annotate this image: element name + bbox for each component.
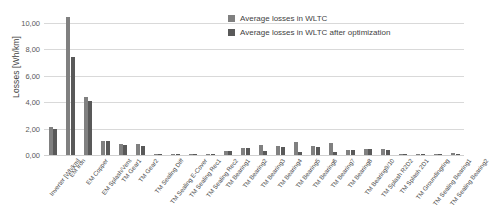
bar-series-0 (171, 154, 175, 155)
bar-series-1 (71, 57, 75, 155)
bar-series-0 (276, 146, 280, 155)
y-tick-label: 6,00 (25, 71, 40, 80)
bar-series-0 (154, 154, 158, 155)
bar-series-1 (53, 129, 57, 155)
x-label-cell: TM Bearing2 (237, 156, 255, 223)
bar-series-0 (434, 154, 438, 155)
x-label-cell: TM Groundingring (412, 156, 430, 223)
bar-series-1 (386, 150, 390, 155)
bar-series-1 (456, 154, 460, 155)
x-label-cell: TM Bearing7 (324, 156, 342, 223)
bar-group (149, 12, 167, 155)
x-label-cell: TM Sealing Bearing1 (429, 156, 447, 223)
x-label-cell: TM Bearing5 (289, 156, 307, 223)
x-label-cell: TM Sealing Bearing2 (447, 156, 465, 223)
x-label-cell: EM Iron (62, 156, 80, 223)
x-label-cell: TM Sealing Rec2 (202, 156, 220, 223)
bar-series-1 (211, 154, 215, 155)
y-tick-label: 10,00 (21, 18, 40, 27)
x-label-cell: TM Gear1 (114, 156, 132, 223)
bar-group (114, 12, 132, 155)
bar-group (79, 12, 97, 155)
x-label-cell: TM Sealing Rec1 (184, 156, 202, 223)
bar-series-0 (136, 144, 140, 155)
bar-series-0 (206, 154, 210, 155)
y-tick-label: 4,00 (25, 98, 40, 107)
x-label-cell: EM Copper (79, 156, 97, 223)
bar-series-0 (329, 143, 333, 155)
bar-group (97, 12, 115, 155)
bar-series-1 (438, 154, 442, 155)
x-label-cell: TM Bearing9/10 (359, 156, 377, 223)
legend-swatch-icon (228, 15, 235, 22)
bar-series-1 (141, 146, 145, 155)
bar-series-1 (228, 151, 232, 155)
bar-series-0 (399, 154, 403, 155)
bar-series-0 (189, 154, 193, 155)
bar-series-1 (123, 145, 127, 155)
bar-series-1 (403, 154, 407, 155)
legend-item-series-1: Average losses in WLTC after optimizatio… (228, 28, 390, 37)
bar-series-0 (49, 127, 53, 155)
bar-series-1 (158, 154, 162, 155)
x-axis-labels: Inverter [Wh/km]EM IronEM CopperEM Splas… (44, 156, 464, 223)
x-label-cell: TM Bearing8 (342, 156, 360, 223)
bar-group (447, 12, 465, 155)
bar-series-0 (416, 154, 420, 155)
y-axis-title: Losses [Wh/km] (11, 12, 21, 122)
bar-series-1 (316, 147, 320, 155)
bar-series-1 (176, 154, 180, 155)
bar-group (202, 12, 220, 155)
bar-series-0 (241, 148, 245, 155)
y-tick-label: 8,00 (25, 45, 40, 54)
x-label-cell: TM Splash 2D1 (394, 156, 412, 223)
bar-group (62, 12, 80, 155)
x-label-cell: TM Bearing1 (219, 156, 237, 223)
legend-label: Average losses in WLTC (240, 14, 327, 23)
legend-item-series-0: Average losses in WLTC (228, 14, 390, 23)
bar-group (394, 12, 412, 155)
bar-series-1 (351, 150, 355, 155)
bar-series-0 (84, 97, 88, 155)
bar-group (412, 12, 430, 155)
bar-series-0 (119, 144, 123, 155)
bar-series-0 (259, 145, 263, 155)
x-label-cell: TM Splash R2D2 (377, 156, 395, 223)
bar-series-1 (106, 141, 110, 155)
bar-group (132, 12, 150, 155)
bar-series-0 (224, 151, 228, 155)
bar-series-1 (333, 152, 337, 155)
bar-series-1 (246, 148, 250, 155)
x-label-cell: EM Splash/Vent (97, 156, 115, 223)
x-label-cell: TM Bearing6 (307, 156, 325, 223)
bar-series-0 (364, 149, 368, 155)
x-label-cell: TM Sealing Diff (149, 156, 167, 223)
bar-series-1 (421, 154, 425, 155)
x-label-cell: TM Bearing3 (254, 156, 272, 223)
bar-series-0 (346, 150, 350, 155)
y-tick-label: 0,00 (25, 151, 40, 160)
y-tick-label: 2,00 (25, 124, 40, 133)
x-label-cell: TM Bearing4 (272, 156, 290, 223)
bar-series-1 (281, 147, 285, 155)
legend-label: Average losses in WLTC after optimizatio… (240, 28, 390, 37)
bar-series-1 (298, 152, 302, 155)
bar-series-0 (311, 146, 315, 155)
bar-series-1 (193, 154, 197, 155)
bar-series-1 (88, 101, 92, 155)
x-label-cell: TM Sealing E-Cover (167, 156, 185, 223)
bar-series-1 (263, 151, 267, 155)
x-label-cell: Inverter [Wh/km] (44, 156, 62, 223)
bar-group (167, 12, 185, 155)
bar-series-0 (66, 17, 70, 155)
chart-legend: Average losses in WLTC Average losses in… (228, 14, 390, 37)
bar-group (44, 12, 62, 155)
bar-group (429, 12, 447, 155)
bar-series-1 (368, 149, 372, 155)
x-label-cell: TM Gear2 (132, 156, 150, 223)
legend-swatch-icon (228, 29, 235, 36)
bar-series-0 (294, 142, 298, 155)
bar-series-0 (381, 149, 385, 155)
bar-group (184, 12, 202, 155)
